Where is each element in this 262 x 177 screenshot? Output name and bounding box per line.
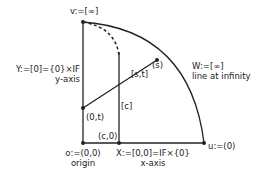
point-v [81, 20, 85, 24]
label-s: (s) [152, 60, 163, 70]
label-origin: o:=(0,0) [48, 148, 118, 158]
point-origin [81, 141, 85, 145]
caption-origin: origin [48, 158, 118, 168]
label-line-s-t: [s,t] [131, 69, 148, 79]
label-y-axis: Y:=[0]={0}×IF [2, 64, 80, 74]
point-c-zero [117, 141, 121, 145]
caption-x-axis: x-axis [110, 158, 196, 168]
label-line-at-infinity: W:=[∞] [192, 61, 224, 71]
label-v: v:=[∞] [70, 6, 98, 16]
line-s-t [83, 60, 157, 108]
label-c-zero: (c,0) [98, 131, 117, 141]
point-zero-t [81, 106, 85, 110]
label-x-axis: X:=[0,0]=IF×{0} [110, 148, 196, 158]
label-line-c: [c] [121, 101, 132, 111]
line-at-infinity-arc [83, 22, 204, 143]
label-zero-t: (0,t) [86, 112, 104, 122]
caption-y-axis: y-axis [2, 74, 80, 84]
projective-plane-diagram: v:=[∞] Y:=[0]={0}×IF y-axis (s) [s,t] W:… [0, 0, 262, 177]
point-u [202, 141, 206, 145]
label-u: u:=(0) [208, 141, 235, 151]
caption-line-at-infinity: line at infinity [192, 71, 251, 81]
